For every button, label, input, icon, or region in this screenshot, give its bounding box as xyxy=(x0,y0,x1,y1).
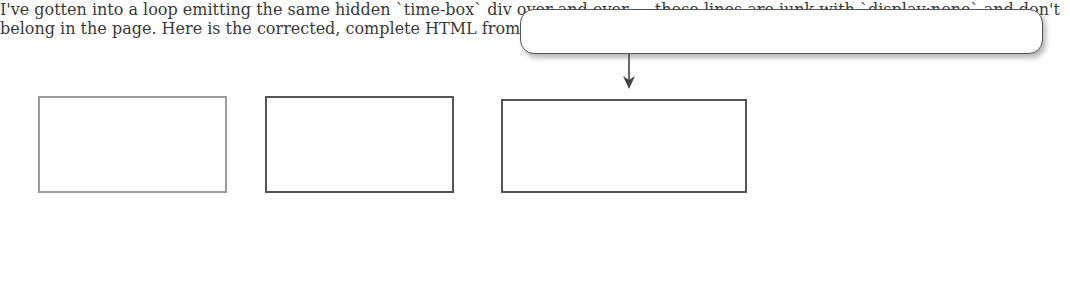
annual-interest-rate-box xyxy=(501,99,747,193)
simple-interest-box xyxy=(38,96,227,193)
callout-note xyxy=(520,9,1043,54)
principal-box xyxy=(265,96,454,193)
arrow-down-icon xyxy=(621,54,637,90)
